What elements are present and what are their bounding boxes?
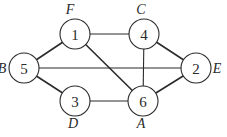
node-6: 6A <box>128 86 158 131</box>
node-letter-label: C <box>136 2 146 17</box>
node-number: 2 <box>192 61 200 77</box>
node-number: 4 <box>140 27 148 43</box>
node-letter-label: E <box>212 61 222 76</box>
node-letter-label: D <box>67 116 78 131</box>
node-number: 3 <box>71 94 79 110</box>
nodes-layer: 1F2E3D4C5B6A <box>0 2 222 131</box>
node-letter-label: B <box>0 61 7 76</box>
node-letter-label: F <box>65 2 75 17</box>
edges-layer <box>24 34 196 101</box>
graph-diagram: 1F2E3D4C5B6A <box>0 0 227 137</box>
node-letter-label: A <box>136 116 146 131</box>
node-3: 3D <box>60 86 90 131</box>
node-2: 2E <box>181 53 222 83</box>
node-1: 1F <box>60 2 90 50</box>
node-number: 5 <box>20 61 28 77</box>
node-5: 5B <box>0 53 39 83</box>
node-number: 1 <box>71 27 79 43</box>
node-number: 6 <box>139 94 147 110</box>
node-4: 4C <box>129 2 159 50</box>
